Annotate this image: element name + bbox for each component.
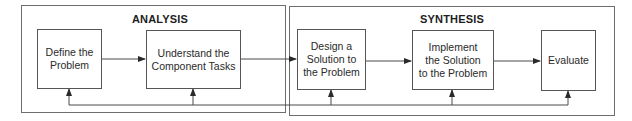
step-implement-solution: Implement the Solution to the Problem	[412, 30, 494, 90]
step-evaluate: Evaluate	[541, 30, 596, 91]
step-define-problem: Define the Problem	[37, 29, 102, 89]
step-design-solution: Design a Solution to the Problem	[297, 29, 366, 90]
step-understand-tasks: Understand the Component Tasks	[146, 30, 241, 89]
